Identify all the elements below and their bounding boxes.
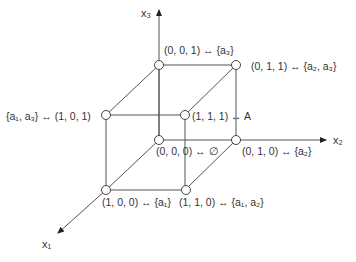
node-010 [232, 136, 241, 145]
x3-axis-label: x₃ [141, 7, 151, 19]
node-label-011: (0, 1, 1) ↔ {a₂, a₃} [251, 60, 336, 72]
node-000 [155, 136, 164, 145]
edge [106, 65, 159, 115]
cube-diagram [0, 0, 356, 262]
node-011 [232, 61, 241, 70]
node-110 [182, 186, 191, 195]
x1-axis [58, 190, 106, 233]
node-100 [102, 186, 111, 195]
x1-axis-label: x₁ [42, 238, 51, 250]
node-label-000: (0, 0, 0) ↔ ∅ [156, 145, 219, 157]
edge [185, 65, 236, 115]
node-label-101: {a₁, a₃} ↔ (1, 0, 1) [6, 110, 91, 122]
node-label-111: (1, 1, 1) ↔ A [192, 110, 251, 122]
node-001 [155, 61, 164, 70]
node-101 [102, 111, 111, 120]
x2-axis-label: x₂ [333, 134, 343, 146]
node-label-110: (1, 1, 0) ↔ {a₁, a₂} [179, 196, 264, 208]
node-111 [181, 111, 190, 120]
node-label-100: (1, 0, 0) ↔ {a₁} [102, 196, 171, 208]
node-label-001: (0, 0, 1) ↔ {a₃} [164, 44, 234, 56]
edge [106, 140, 159, 190]
node-label-010: (0, 1, 0) ↔ {a₂} [242, 145, 311, 157]
